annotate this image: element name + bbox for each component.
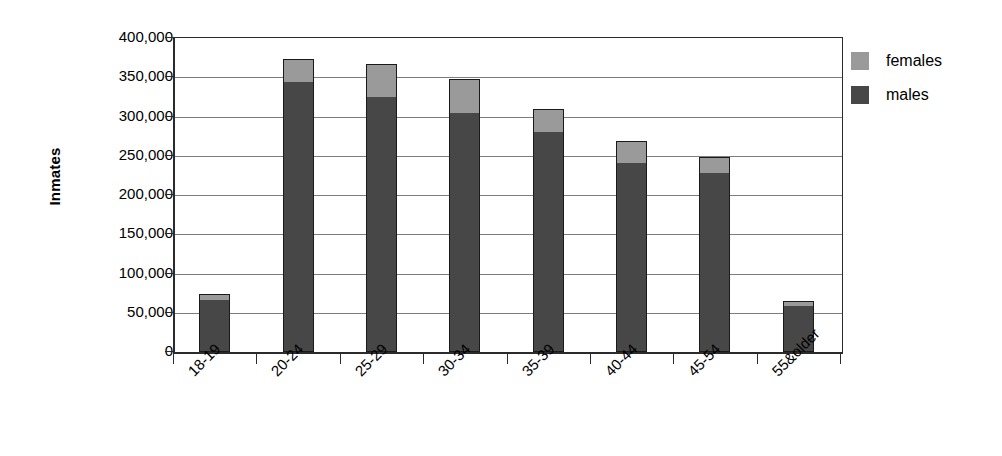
x-axis-tick-mark	[256, 353, 257, 364]
x-axis-tick-label: 55&older	[769, 326, 823, 380]
x-axis-tick-mark	[340, 353, 341, 364]
x-axis-tick-label: 18-19	[185, 341, 223, 379]
x-axis-tick-label: 40-44	[602, 341, 640, 379]
legend-item[interactable]: males	[851, 78, 942, 112]
chart-legend: femalesmales	[851, 44, 942, 112]
x-axis-tick-mark	[673, 353, 674, 364]
x-axis-tick-label: 45-54	[685, 341, 723, 379]
bar-chart: Inmates 050,000100,000150,000200,000250,…	[0, 0, 1002, 456]
x-axis-tick-mark	[423, 353, 424, 364]
x-axis-tick-mark	[507, 353, 508, 364]
x-axis-tick-mark	[757, 353, 758, 364]
legend-swatch	[851, 86, 869, 104]
legend-label: males	[886, 86, 929, 104]
legend-swatch	[851, 52, 869, 70]
x-axis-tick-label: 25-29	[352, 341, 390, 379]
x-axis-tick-mark	[840, 353, 841, 364]
x-axis-tick-mark	[173, 353, 174, 364]
legend-item[interactable]: females	[851, 44, 942, 78]
x-axis-tick-label: 30-34	[435, 341, 473, 379]
x-axis-tick-label: 20-24	[268, 341, 306, 379]
x-axis-tick-label: 35-39	[519, 341, 557, 379]
x-axis-tick-mark	[590, 353, 591, 364]
legend-label: females	[886, 52, 942, 70]
